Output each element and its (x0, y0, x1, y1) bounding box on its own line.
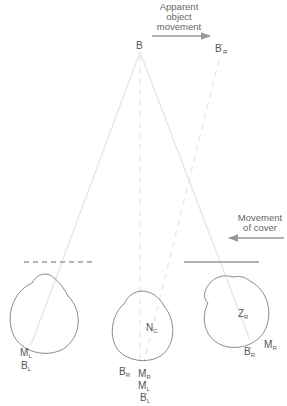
label-sub: R (126, 372, 130, 378)
caption-line: movement (150, 22, 208, 32)
label-right-m: M'R (264, 337, 277, 353)
cyclopean-eye (112, 291, 172, 361)
ray-b-double-prime-dashed (144, 60, 219, 362)
label-cyclopean-bl: B'L (140, 390, 150, 406)
left-eye (10, 274, 78, 353)
label-sub: R (251, 352, 255, 358)
apparent-movement-caption: Apparent object movement (150, 2, 208, 32)
label-object-b: B (136, 41, 143, 51)
label-main: B (136, 40, 143, 51)
label-sub: C (153, 328, 157, 334)
label-right-z: ZR (238, 309, 248, 322)
ray-b-to-left-eye (31, 52, 140, 345)
label-cyclopean-n: NC (146, 323, 158, 336)
right-eye (204, 276, 269, 348)
label-sub: L (147, 398, 150, 404)
label-left-b: B'L (21, 358, 31, 374)
label-sub: L (28, 366, 31, 372)
label-displaced-b: B''R (215, 41, 227, 57)
label-sub: R (223, 49, 227, 55)
label-sub: R (273, 345, 277, 351)
cover-movement-caption: Movement of cover (232, 213, 287, 233)
label-right-b: B'R (244, 344, 255, 360)
label-sub: R (244, 314, 248, 320)
caption-line: of cover (232, 223, 287, 233)
label-cyclopean-br: B'R (119, 364, 130, 380)
ray-lines (31, 52, 250, 362)
